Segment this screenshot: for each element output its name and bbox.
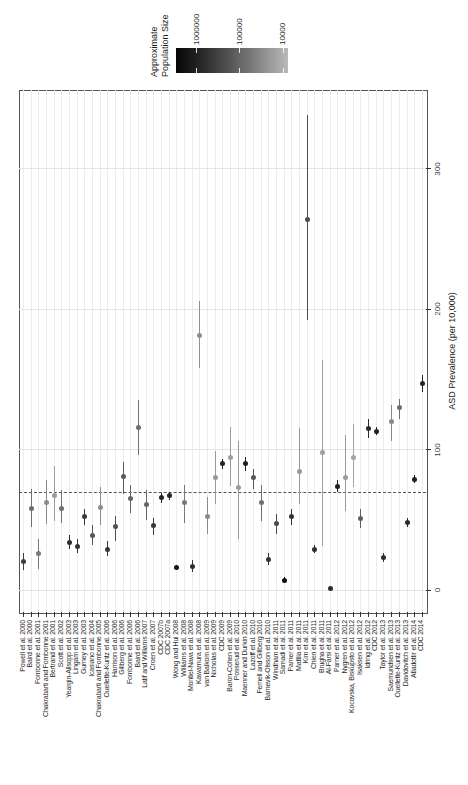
prevalence-point: [412, 477, 417, 482]
study-axis-tick: [77, 612, 78, 617]
study-axis-label: Scott et al. 2002: [57, 620, 65, 667]
study-axis-tick: [199, 612, 200, 617]
prevalence-point: [305, 217, 310, 222]
study-axis-label: Isaksen et al. 2012: [356, 620, 364, 675]
colorbar-tick-top: [239, 48, 240, 53]
study-axis-label: Barnevik-Olsson et al. 2010: [264, 620, 272, 701]
study-axis-tick: [31, 612, 32, 617]
colorbar-tick-bottom: [283, 68, 284, 73]
study-axis-tick: [123, 612, 124, 617]
study-axis-label: Chien et al. 2011: [310, 620, 318, 669]
study-axis-label: Taylor et al. 2013: [379, 620, 387, 670]
value-axis-tick: [426, 309, 431, 310]
prevalence-point: [320, 450, 325, 455]
study-axis-label: Kawamura et al. 2008: [195, 620, 203, 684]
study-axis-tick: [276, 612, 277, 617]
value-axis-title: ASD Prevalence (per 10,000): [447, 292, 458, 410]
study-axis-label: Ouellette-Kuntz et al. 2006: [103, 620, 111, 698]
study-axis-tick: [253, 612, 254, 617]
study-axis-tick: [46, 612, 47, 617]
study-axis-tick: [391, 612, 392, 617]
study-axis-tick: [184, 612, 185, 617]
study-axis-tick: [222, 612, 223, 617]
study-axis-tick: [353, 612, 354, 617]
study-axis-label: Gurney et al. 2003: [80, 620, 88, 674]
legend-title-line-1: Approximate: [149, 14, 160, 77]
study-axis-label: CDC 2014: [417, 620, 425, 651]
study-axis-tick: [330, 612, 331, 617]
study-axis-label: Wong and Hui 2008: [172, 620, 180, 678]
prevalence-point: [67, 540, 72, 545]
prevalence-point: [90, 533, 95, 538]
study-axis-tick: [176, 612, 177, 617]
confidence-interval-bar: [345, 435, 346, 511]
value-axis-tick-label: 200: [433, 302, 442, 315]
study-axis-tick: [422, 612, 423, 617]
prevalence-point: [397, 405, 402, 410]
study-axis-tick: [268, 612, 269, 617]
colorbar-tick-label: 1000000: [192, 14, 201, 45]
asd-prevalence-figure: Approximate Population Size ASD Prevalen…: [0, 0, 468, 785]
prevalence-point: [190, 564, 195, 569]
study-axis-tick: [192, 612, 193, 617]
study-axis-label: Fombonne et al. 2006: [126, 620, 134, 684]
study-axis-tick: [291, 612, 292, 617]
study-axis-label: Parner et al. 2012: [333, 620, 341, 672]
colorbar-tick-top: [196, 48, 197, 53]
study-axis-label: Bertrand et al. 2001: [49, 620, 57, 678]
study-axis-tick: [54, 612, 55, 617]
study-axis-label: Croen et al. 2007: [149, 620, 157, 670]
colorbar-tick-label: 10000: [278, 23, 287, 45]
study-axis-tick: [261, 612, 262, 617]
study-axis-tick: [383, 612, 384, 617]
study-axis-tick: [115, 612, 116, 617]
study-axis-label: CDC 2009: [218, 620, 226, 651]
study-axis-tick: [245, 612, 246, 617]
study-axis-label: Chakrabarti and Fombonne 2005: [95, 620, 103, 717]
study-axis-tick: [100, 612, 101, 617]
study-axis-tick: [161, 612, 162, 617]
study-axis-label: Baird et al. 2000: [26, 620, 34, 668]
reference-line: [19, 492, 426, 493]
value-axis-tick: [426, 449, 431, 450]
study-axis-label: Maenner and Durkin 2010: [241, 620, 249, 696]
study-axis-tick: [84, 612, 85, 617]
study-axis-tick: [399, 612, 400, 617]
study-axis-tick: [207, 612, 208, 617]
study-axis-tick: [153, 612, 154, 617]
study-axis-tick: [23, 612, 24, 617]
prevalence-point: [374, 429, 379, 434]
value-axis-tick-label: 100: [433, 443, 442, 456]
value-axis-tick: [426, 590, 431, 591]
prevalence-point: [75, 544, 80, 549]
study-axis-tick: [314, 612, 315, 617]
study-axis-tick: [337, 612, 338, 617]
colorbar-tick-bottom: [196, 68, 197, 73]
horizontal-gridline: [19, 309, 426, 310]
study-axis-tick: [130, 612, 131, 617]
study-axis-tick: [360, 612, 361, 617]
study-axis-label: Fombonne et al. 2001: [34, 620, 42, 684]
study-axis-tick: [230, 612, 231, 617]
value-axis-tick-label: 300: [433, 162, 442, 175]
colorbar-tick-label: 100000: [235, 18, 244, 45]
study-axis-label: Parner et al. 2011: [287, 620, 295, 672]
prevalence-point: [29, 506, 34, 511]
study-axis-label: Gillberg et al. 2006: [118, 620, 126, 675]
prevalence-point: [98, 505, 103, 510]
study-axis-tick: [376, 612, 377, 617]
study-axis-tick: [146, 612, 147, 617]
prevalence-point: [420, 381, 425, 386]
value-axis-tick: [426, 168, 431, 169]
study-axis-tick: [69, 612, 70, 617]
study-axis-tick: [322, 612, 323, 617]
prevalence-point: [136, 425, 141, 430]
value-axis-tick-label: 0: [433, 588, 442, 592]
study-axis-tick: [414, 612, 415, 617]
legend-title: Approximate Population Size: [149, 14, 171, 77]
study-axis-label: Davidovitch et al. 2013: [402, 620, 410, 686]
study-axis-tick: [284, 612, 285, 617]
horizontal-gridline: [19, 168, 426, 169]
colorbar-tick-top: [283, 48, 284, 53]
population-size-colorbar: [176, 48, 288, 73]
